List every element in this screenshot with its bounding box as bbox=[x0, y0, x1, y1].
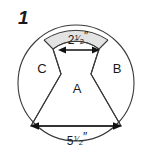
geometry-diagram: 1 A B C 21⁄2″ 51⁄2″ bbox=[0, 0, 150, 161]
region-label-c: C bbox=[37, 61, 46, 76]
top-dim-unit: ″ bbox=[84, 29, 89, 43]
figure-container: 1 A B C 21⁄2″ 51⁄2″ bbox=[0, 0, 150, 161]
figure-number-label: 1 bbox=[18, 7, 29, 28]
region-label-b: B bbox=[113, 61, 122, 76]
bottom-dim-unit: ″ bbox=[83, 130, 88, 144]
region-label-a: A bbox=[73, 81, 82, 96]
